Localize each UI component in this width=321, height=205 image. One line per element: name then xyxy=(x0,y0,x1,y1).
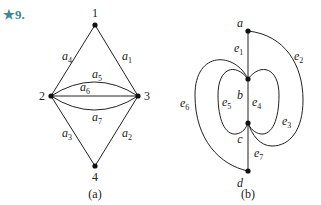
vertex-3 xyxy=(135,93,140,98)
vertex-d xyxy=(245,168,250,173)
vertex-4 xyxy=(92,163,97,168)
edge-label-a4: a4 xyxy=(62,49,72,65)
vertex-label-b: b xyxy=(237,88,243,102)
vertex-b xyxy=(245,76,250,81)
vertex-c xyxy=(245,120,250,125)
edge-a5 xyxy=(51,82,138,96)
vertex-a xyxy=(245,28,250,33)
graph-diagrams: 1234a1a2a3a4a5a6a7(a)abcde1e2e3e4e5e6e7(… xyxy=(0,0,321,205)
edge-label-a3: a3 xyxy=(62,126,72,142)
graph-a xyxy=(51,25,138,166)
edge-a7 xyxy=(51,96,138,110)
vertex-label-3: 3 xyxy=(144,89,150,103)
edge-label-a1: a1 xyxy=(122,49,132,65)
edge-label-a5: a5 xyxy=(92,67,102,83)
edge-label-a7: a7 xyxy=(92,110,102,126)
vertex-1 xyxy=(92,22,97,27)
graph-b xyxy=(195,31,303,171)
edge-label-e2: e2 xyxy=(294,49,303,65)
vertex-label-c: c xyxy=(237,132,243,146)
edge-label-e4: e4 xyxy=(252,95,261,111)
edge-label-e7: e7 xyxy=(254,146,263,162)
vertex-2 xyxy=(48,93,53,98)
edge-label-e3: e3 xyxy=(282,114,291,130)
vertex-label-a: a xyxy=(237,16,243,30)
vertex-label-1: 1 xyxy=(92,6,98,20)
edge-label-a2: a2 xyxy=(122,126,132,142)
edge-label-e5: e5 xyxy=(222,95,231,111)
caption-b: (b) xyxy=(241,187,255,201)
caption-a: (a) xyxy=(88,187,101,201)
vertex-label-4: 4 xyxy=(92,170,98,184)
labels: 1234a1a2a3a4a5a6a7(a)abcde1e2e3e4e5e6e7(… xyxy=(39,6,303,201)
vertex-label-2: 2 xyxy=(39,89,45,103)
edge-label-e6: e6 xyxy=(180,96,189,112)
edge-label-e1: e1 xyxy=(234,41,243,57)
